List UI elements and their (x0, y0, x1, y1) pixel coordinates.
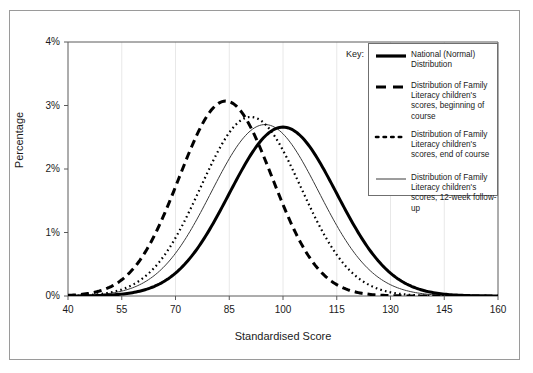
x-tick-label: 145 (424, 304, 464, 315)
x-tick-label: 85 (209, 304, 249, 315)
x-tick-label: 40 (48, 304, 88, 315)
legend-box: National (Normal) DistributionDistributi… (368, 43, 498, 196)
legend-entry-label: Distribution of Family Literacy children… (408, 173, 499, 214)
legend-entry-label: National (Normal) Distribution (408, 50, 499, 70)
x-tick-label: 130 (371, 304, 411, 315)
x-tick-label: 70 (156, 304, 196, 315)
x-tick-label: 55 (102, 304, 142, 315)
y-tick-label: 2% (30, 163, 60, 174)
figure-container: 40557085100115130145160 0%1%2%3%4% Stand… (0, 0, 533, 373)
thick-dashed-line-sample (374, 81, 408, 95)
legend-entry-label: Distribution of Family Literacy children… (408, 81, 499, 122)
x-tick-label: 160 (478, 304, 518, 315)
x-tick-label: 100 (263, 304, 303, 315)
legend-entry: Distribution of Family Literacy children… (369, 130, 499, 161)
legend-entry: Distribution of Family Literacy children… (369, 173, 499, 214)
y-tick-label: 4% (30, 36, 60, 47)
y-tick-label: 1% (30, 227, 60, 238)
thick-solid-line-sample (374, 50, 408, 64)
x-axis-title: Standardised Score (68, 330, 498, 342)
y-axis-title: Percentage (13, 85, 25, 195)
legend-entry: Distribution of Family Literacy children… (369, 81, 499, 122)
y-tick-label: 3% (30, 100, 60, 111)
thin-solid-line-sample (374, 173, 408, 187)
x-tick-label: 115 (317, 304, 357, 315)
legend-key-label: Key: (346, 49, 364, 59)
dotted-line-sample (374, 131, 408, 145)
legend-entry-label: Distribution of Family Literacy children… (408, 130, 499, 161)
y-tick-label: 0% (30, 290, 60, 301)
legend-entry: National (Normal) Distribution (369, 50, 499, 70)
